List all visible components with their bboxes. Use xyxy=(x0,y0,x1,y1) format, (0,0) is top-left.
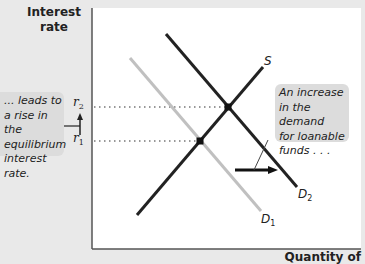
d1-symbol: D xyxy=(261,212,270,226)
left-callout-line: interest rate. xyxy=(4,152,64,181)
d2-label: D2 xyxy=(298,187,312,203)
shift-arrow-head-icon xyxy=(268,166,278,174)
y-axis-title: Interest rate xyxy=(20,5,88,35)
d1-label: D1 xyxy=(261,212,275,228)
left-callout-line: a rise in the xyxy=(4,109,64,138)
r2-label: r2 xyxy=(73,95,84,111)
supply-curve-label: S xyxy=(264,54,272,68)
equilibrium-point-e2 xyxy=(225,104,232,111)
left-callout-line: ... leads to xyxy=(4,94,64,109)
left-callout-line: equilibrium xyxy=(4,138,64,153)
left-callout: ... leads to a rise in the equilibrium i… xyxy=(0,92,64,156)
rate-rise-arrow-head-icon xyxy=(77,113,83,120)
demand-curve-d1 xyxy=(130,58,261,211)
right-callout-line: in the demand xyxy=(279,101,349,130)
right-callout-line: for loanable xyxy=(279,130,349,145)
equilibrium-point-e1 xyxy=(197,138,204,145)
d2-symbol: D xyxy=(298,187,307,201)
right-callout-line: funds . . . xyxy=(279,144,349,159)
right-callout-line: An increase xyxy=(279,86,349,101)
y-axis-title-line1: Interest xyxy=(20,5,88,20)
d2-subscript: 2 xyxy=(307,194,312,203)
x-axis-title: Quantity of xyxy=(285,250,361,264)
y-axis-title-line2: rate xyxy=(20,20,88,35)
right-callout: An increase in the demand for loanable f… xyxy=(275,84,349,142)
r1-subscript: 1 xyxy=(79,138,84,147)
r1-label: r1 xyxy=(73,131,84,147)
r2-subscript: 2 xyxy=(79,102,84,111)
d1-subscript: 1 xyxy=(270,219,275,228)
